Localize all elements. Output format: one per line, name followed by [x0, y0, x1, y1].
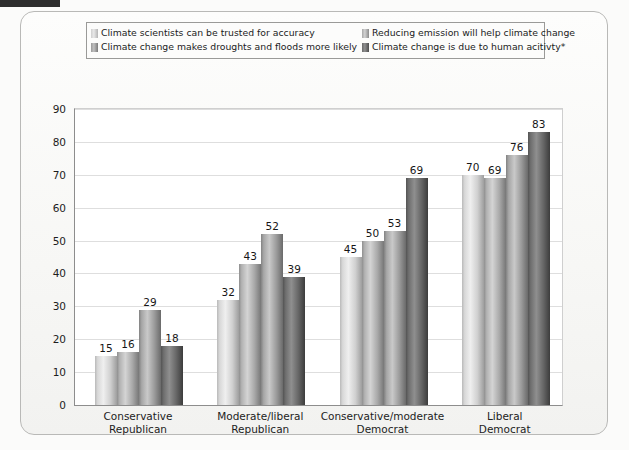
bar-series-3-group-3[interactable]: 53	[384, 231, 406, 405]
legend-row: Climate change makes droughts and floods…	[91, 40, 540, 54]
bar-slot: 18	[161, 109, 183, 405]
legend-label-series-2: Reducing emission will help climate chan…	[372, 26, 575, 40]
legend-item-series-4: Climate change is due to human acitivty*	[362, 40, 540, 54]
bar-slot: 45	[340, 109, 362, 405]
bar-slot: 53	[384, 109, 406, 405]
bar-group: 15162918	[95, 109, 183, 405]
bar-slot: 32	[217, 109, 239, 405]
bar-value-label: 69	[410, 164, 423, 176]
bar-series-4-group-4[interactable]: 83	[528, 132, 550, 405]
bar-value-label: 83	[532, 118, 545, 130]
bar-slot: 29	[139, 109, 161, 405]
bar-value-label: 15	[99, 342, 112, 354]
bar-series-3-group-1[interactable]: 29	[139, 310, 161, 405]
bar-series-2-group-3[interactable]: 50	[362, 241, 384, 405]
legend-label-series-1: Climate scientists can be trusted for ac…	[101, 26, 315, 40]
bar-series-4-group-2[interactable]: 39	[283, 277, 305, 405]
bar-series-2-group-1[interactable]: 16	[117, 352, 139, 405]
bar-slot: 15	[95, 109, 117, 405]
bar-group: 70697683	[462, 109, 550, 405]
y-axis-tick-20: 20	[53, 333, 66, 345]
bar-value-label: 43	[244, 250, 257, 262]
x-axis-label-line: Democrat	[479, 423, 531, 436]
chart-plot-wrapper: 0102030405060708090 15162918324352394550…	[44, 108, 563, 406]
bar-series-4-group-1[interactable]: 18	[161, 346, 183, 405]
bar-value-label: 32	[222, 286, 235, 298]
plot-area: 15162918324352394550536970697683	[74, 108, 563, 406]
x-axis-label-line: Moderate/liberal	[217, 410, 303, 423]
x-axis-label-group-4: LiberalDemocrat	[479, 410, 531, 436]
series-3-swatch	[91, 43, 98, 52]
x-axis-category-labels: ConservativeRepublicanModerate/liberalRe…	[74, 410, 593, 444]
bar-slot: 70	[462, 109, 484, 405]
bar-slot: 69	[484, 109, 506, 405]
y-axis-tick-90: 90	[53, 103, 66, 115]
bar-series-1-group-1[interactable]: 15	[95, 356, 117, 405]
bar-series-2-group-2[interactable]: 43	[239, 264, 261, 405]
series-1-swatch	[91, 29, 98, 38]
legend-item-series-2: Reducing emission will help climate chan…	[362, 26, 540, 40]
legend-item-series-3: Climate change makes droughts and floods…	[91, 40, 362, 54]
x-axis-label-line: Democrat	[321, 423, 445, 436]
bar-value-label: 69	[488, 164, 501, 176]
bar-series-3-group-4[interactable]: 76	[506, 155, 528, 405]
x-axis-label-group-1: ConservativeRepublican	[103, 410, 172, 436]
bar-group: 32435239	[217, 109, 305, 405]
series-4-swatch	[362, 43, 369, 52]
bar-value-label: 16	[121, 338, 134, 350]
bar-slot: 43	[239, 109, 261, 405]
bar-series-1-group-2[interactable]: 32	[217, 300, 239, 405]
x-axis-label-line: Liberal	[479, 410, 531, 423]
x-axis-label-line: Republican	[217, 423, 303, 436]
x-axis-label-line: Conservative/moderate	[321, 410, 445, 423]
y-axis-tick-40: 40	[53, 267, 66, 279]
x-axis-label-line: Conservative	[103, 410, 172, 423]
y-axis-tick-70: 70	[53, 169, 66, 181]
y-axis-tick-60: 60	[53, 202, 66, 214]
y-axis-tick-80: 80	[53, 136, 66, 148]
chart-legend: Climate scientists can be trusted for ac…	[86, 22, 545, 59]
y-axis-tick-50: 50	[53, 235, 66, 247]
bar-slot: 69	[406, 109, 428, 405]
bar-series-3-group-2[interactable]: 52	[261, 234, 283, 405]
bar-value-label: 53	[388, 217, 401, 229]
bars-layer: 15162918324352394550536970697683	[75, 109, 562, 405]
bar-value-label: 29	[143, 296, 156, 308]
bar-series-1-group-4[interactable]: 70	[462, 175, 484, 405]
x-axis-label-line: Republican	[103, 423, 172, 436]
bar-slot: 50	[362, 109, 384, 405]
bar-value-label: 45	[344, 243, 357, 255]
bar-series-2-group-4[interactable]: 69	[484, 178, 506, 405]
page-top-artifact	[0, 0, 60, 7]
bar-slot: 39	[283, 109, 305, 405]
bar-slot: 83	[528, 109, 550, 405]
series-2-swatch	[362, 29, 369, 38]
bar-series-1-group-3[interactable]: 45	[340, 257, 362, 405]
bar-value-label: 70	[466, 161, 479, 173]
y-axis: 0102030405060708090	[44, 108, 70, 406]
legend-label-series-3: Climate change makes droughts and floods…	[101, 40, 357, 54]
y-axis-tick-0: 0	[59, 399, 66, 411]
bar-value-label: 18	[165, 332, 178, 344]
x-axis-label-group-2: Moderate/liberalRepublican	[217, 410, 303, 436]
bar-value-label: 76	[510, 141, 523, 153]
x-axis-label-group-3: Conservative/moderateDemocrat	[321, 410, 445, 436]
legend-item-series-1: Climate scientists can be trusted for ac…	[91, 26, 362, 40]
bar-slot: 52	[261, 109, 283, 405]
bar-slot: 16	[117, 109, 139, 405]
bar-value-label: 52	[266, 220, 279, 232]
y-axis-tick-10: 10	[53, 366, 66, 378]
y-axis-tick-30: 30	[53, 300, 66, 312]
legend-label-series-4: Climate change is due to human acitivty*	[372, 40, 565, 54]
bar-series-4-group-3[interactable]: 69	[406, 178, 428, 405]
bar-value-label: 39	[288, 263, 301, 275]
bar-group: 45505369	[340, 109, 428, 405]
bar-value-label: 50	[366, 227, 379, 239]
legend-row: Climate scientists can be trusted for ac…	[91, 26, 540, 40]
bar-slot: 76	[506, 109, 528, 405]
